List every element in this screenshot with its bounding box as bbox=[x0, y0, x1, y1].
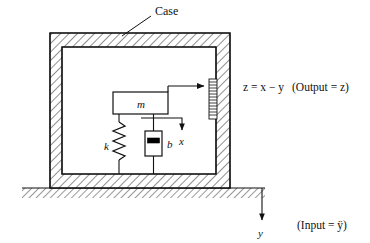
x-displacement-label: x bbox=[178, 135, 184, 147]
accelerometer-schematic-figure: Case m k b x y z = x − y (Output = z) (I… bbox=[0, 0, 370, 243]
y-displacement-label: y bbox=[257, 227, 263, 239]
output-note-label: (Output = z) bbox=[292, 81, 349, 94]
case-label: Case bbox=[155, 4, 178, 18]
spring-label: k bbox=[104, 140, 110, 152]
damper-element bbox=[145, 114, 162, 174]
ground-surface bbox=[22, 188, 265, 198]
mass-label: m bbox=[137, 98, 145, 110]
input-note-label: (Input = ÿ) bbox=[297, 219, 347, 232]
diagram-canvas: Case m k b x y z = x − y (Output = z) (I… bbox=[0, 0, 370, 243]
pointer-arrow-to-scale bbox=[168, 86, 204, 92]
spring-element bbox=[113, 114, 125, 174]
displacement-scale bbox=[209, 79, 217, 119]
output-equation-label: z = x − y bbox=[243, 81, 284, 94]
damper-piston bbox=[148, 138, 160, 143]
x-displacement-arrow bbox=[141, 118, 182, 130]
damper-label: b bbox=[167, 138, 173, 150]
